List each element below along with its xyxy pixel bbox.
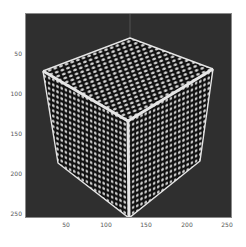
x-tick-label: 100 [100, 221, 111, 228]
y-tick-label: 200 [11, 170, 22, 177]
x-tick-label: 250 [221, 221, 232, 228]
y-tick-label: 150 [11, 130, 22, 137]
y-tick-label: 50 [14, 50, 22, 57]
x-tick-label: 150 [140, 221, 151, 228]
cube-image [26, 14, 232, 218]
y-tick-label: 250 [11, 210, 22, 217]
x-tick-label: 50 [62, 221, 70, 228]
y-tick-label: 100 [11, 90, 22, 97]
plot-axes [25, 13, 232, 218]
x-tick-label: 200 [181, 221, 192, 228]
